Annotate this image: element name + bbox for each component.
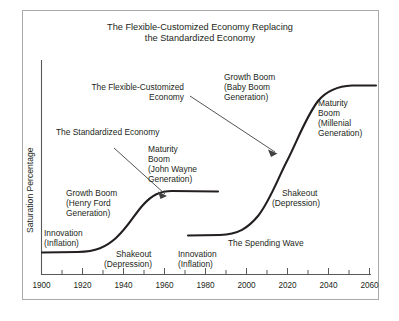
annot-innovation-right-line1: Innovation [178,249,217,259]
annot-maturity-mil-line4: Generation) [318,128,362,138]
annotation-shakeout-depression-left: Shakeout (Depression) [104,249,152,269]
annot-growth-boom-bb-line1: Growth Boom [224,72,275,82]
annot-maturity-mil-line3: (Millenial [318,118,351,128]
economy-saturation-chart: The Flexible-Customized Economy Replacin… [0,0,399,321]
annot-growth-boom-hf-line2: (Henry Ford [66,198,111,208]
annotation-flexible-customized-economy: The Flexible-Customized Economy [91,82,184,102]
leader-flexible-customized-economy [190,96,275,152]
x-tick-label-1960: 1960 [155,281,174,290]
annotation-spending-wave: The Spending Wave [228,238,304,248]
chart-title: The Flexible-Customized Economy Replacin… [107,22,293,43]
annotation-growth-boom-baby-boom: Growth Boom (Baby Boom Generation) [224,72,275,102]
axes [42,60,372,275]
annot-flexible-customized-line1: The Flexible-Customized [91,82,184,92]
annot-shakeout-left-line2: (Depression) [104,259,152,269]
annot-standardized-economy-line1: The Standardized Economy [56,127,160,137]
annot-shakeout-right-line2: (Depression) [272,198,320,208]
annot-growth-boom-bb-line2: (Baby Boom [224,82,270,92]
annot-spending-wave: The Spending Wave [228,238,304,248]
annotation-maturity-boom-millenial: Maturity Boom (Millenial Generation) [318,98,362,138]
annot-flexible-customized-line2: Economy [149,92,185,102]
annot-innovation-left-line2: (Inflation) [44,238,79,248]
x-tick-label-1980: 1980 [196,281,215,290]
annot-maturity-jw-line3: (John Wayne [148,164,197,174]
y-axis-label-group: Saturation Percentage [25,147,35,233]
annotation-growth-boom-henry-ford: Growth Boom (Henry Ford Generation) [66,188,117,218]
annot-shakeout-left-line1: Shakeout [116,249,152,259]
annotation-leaders [114,96,278,199]
x-tick-label-2020: 2020 [278,281,297,290]
x-tick-label-1920: 1920 [73,281,92,290]
x-tick-label-1940: 1940 [114,281,133,290]
annot-maturity-mil-line2: Boom [318,108,340,118]
x-axis-tick-labels: 1900 1920 1940 1960 1980 2000 2020 2040 … [32,281,379,290]
annotation-maturity-boom-john-wayne: Maturity Boom (John Wayne Generation) [148,144,197,184]
x-tick-label-2000: 2000 [237,281,256,290]
annot-shakeout-right-line1: Shakeout [282,188,318,198]
annot-maturity-jw-line1: Maturity [148,144,179,154]
x-tick-label-2060: 2060 [360,281,379,290]
annot-innovation-right-line2: (Inflation) [178,259,213,269]
annotation-standardized-economy: The Standardized Economy [56,127,160,137]
x-tick-label-2040: 2040 [319,281,338,290]
chart-title-line2: the Standardized Economy [145,33,256,43]
curve-flexible-customized-economy [188,86,376,236]
annot-growth-boom-hf-line3: Generation) [66,208,110,218]
annot-growth-boom-bb-line3: Generation) [224,92,268,102]
x-tick-label-1900: 1900 [32,281,51,290]
y-axis-label: Saturation Percentage [25,147,35,233]
annot-maturity-mil-line1: Maturity [318,98,349,108]
annotation-shakeout-depression-right: Shakeout (Depression) [272,188,320,208]
annot-maturity-jw-line4: Generation) [148,174,192,184]
annot-maturity-jw-line2: Boom [148,154,170,164]
annot-innovation-left-line1: Innovation [44,228,83,238]
annotation-innovation-inflation-right: Innovation (Inflation) [178,249,217,269]
chart-title-line1: The Flexible-Customized Economy Replacin… [107,22,293,32]
annotation-innovation-inflation-left: Innovation (Inflation) [44,228,83,248]
annot-growth-boom-hf-line1: Growth Boom [66,188,117,198]
